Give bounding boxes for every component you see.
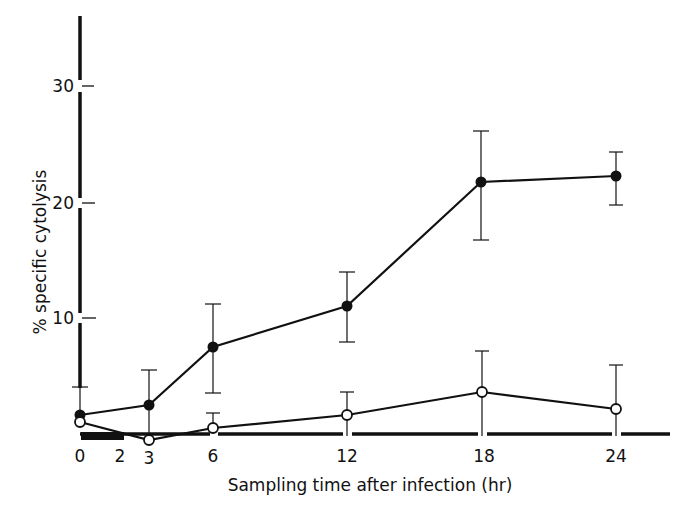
y-tick-label-20: 20 [52,193,74,213]
x-tick-label-3: 3 [144,448,155,468]
x-tick-label-2: 2 [115,446,126,466]
markers-open [75,387,621,445]
data-point [477,387,487,397]
series-line-filled [80,176,616,415]
x-tick-label-6: 6 [208,446,219,466]
data-point [611,404,621,414]
data-point [75,417,85,427]
data-point [208,423,218,433]
data-point [208,342,219,353]
cytolysis-chart: 30 20 10 % specific cytolysis 0 2 3 6 12… [0,0,687,510]
y-tick-label-30: 30 [52,76,74,96]
x-tick-label-12: 12 [336,446,358,466]
data-point [144,400,155,411]
x-tick-label-18: 18 [473,446,495,466]
markers-filled [75,171,622,421]
data-point [342,410,352,420]
data-point [611,171,622,182]
y-axis-title: % specific cytolysis [30,169,50,334]
data-point [144,435,154,445]
x-tick-label-24: 24 [605,446,627,466]
y-tick-label-10: 10 [52,308,74,328]
x-axis-title: Sampling time after infection (hr) [228,475,513,495]
infection-period-bar [81,432,124,440]
data-point [342,301,353,312]
x-tick-label-0: 0 [75,446,86,466]
data-point [476,177,487,188]
